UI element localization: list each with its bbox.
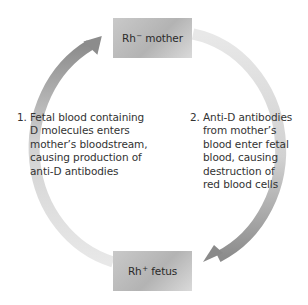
rh-sign: + <box>142 265 148 273</box>
rh-sign: − <box>136 32 142 40</box>
step-line: causing production of <box>30 151 147 164</box>
node-suffix: fetus <box>151 265 177 277</box>
step-1-text: 1. Fetal blood containing D molecules en… <box>30 111 147 178</box>
step-line: Fetal blood containing <box>30 111 147 124</box>
step-line: red blood cells <box>203 178 292 191</box>
node-label: Rh <box>128 265 142 277</box>
step-line: D molecules enters <box>30 124 147 137</box>
step-line: Anti-D antibodies <box>203 111 292 124</box>
step-line: blood enter fetal <box>203 138 292 151</box>
step-number: 1. <box>17 111 27 124</box>
rh-positive-fetus-box: Rh+ fetus <box>113 251 192 291</box>
rh-negative-mother-box: Rh− mother <box>113 18 192 58</box>
step-line: from mother’s <box>203 124 292 137</box>
step-line: blood, causing <box>203 151 292 164</box>
step-line: anti-D antibodies <box>30 165 147 178</box>
step-line: mother’s bloodstream, <box>30 138 147 151</box>
node-label: Rh <box>122 32 136 44</box>
step-2-text: 2. Anti-D antibodies from mother’s blood… <box>203 111 292 191</box>
node-suffix: mother <box>145 32 183 44</box>
step-number: 2. <box>190 111 200 124</box>
step-line: destruction of <box>203 165 292 178</box>
